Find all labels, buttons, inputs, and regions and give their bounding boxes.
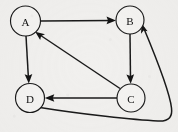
node-a[interactable]: A	[11, 6, 41, 36]
edge-a-to-d-line	[26, 36, 29, 80]
node-b-label: B	[126, 15, 133, 27]
node-a-label: A	[22, 16, 30, 28]
node-c-label: C	[127, 93, 134, 105]
graph-diagram-page: A B C D	[0, 0, 178, 132]
edge-c-to-a-line	[39, 34, 121, 89]
edge-a-to-d	[25, 36, 33, 84]
edge-d-to-b	[40, 24, 172, 121]
node-d[interactable]: D	[16, 84, 45, 113]
node-group: A B C D	[11, 6, 146, 113]
edge-c-to-d	[45, 94, 117, 102]
edge-group	[25, 17, 172, 121]
graph-canvas: A B C D	[0, 0, 178, 132]
edge-a-to-b	[41, 17, 117, 25]
edge-b-to-c-line	[130, 34, 131, 80]
edge-b-to-c	[126, 34, 134, 84]
edge-a-to-b-line	[41, 21, 113, 22]
edge-c-to-a	[35, 32, 120, 89]
node-c[interactable]: C	[117, 84, 145, 112]
edge-c-to-a-arrowhead	[35, 32, 45, 40]
node-b[interactable]: B	[116, 6, 144, 34]
node-d-label: D	[26, 93, 34, 105]
edge-d-to-b-curve	[40, 28, 172, 122]
